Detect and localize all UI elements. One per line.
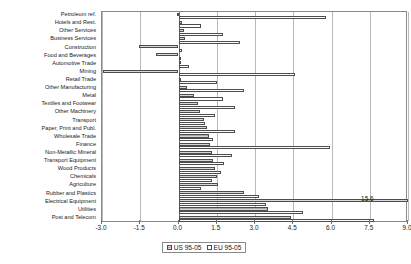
y-axis-category-label: Petroleum ref.	[61, 12, 96, 18]
y-axis-category-label: Paper, Print and Publ.	[42, 126, 96, 132]
legend-item-eu: EU 95-05	[207, 244, 242, 251]
bar-eu	[179, 122, 206, 125]
bar-eu	[179, 154, 233, 157]
legend-swatch-eu-icon	[207, 245, 212, 250]
x-tick-mark	[369, 220, 370, 224]
gridline	[102, 12, 103, 221]
bar-eu	[179, 171, 221, 174]
bar-eu	[179, 203, 267, 206]
y-axis-category-label: Transport	[72, 118, 96, 124]
y-axis-category-label: Metal	[82, 93, 96, 99]
legend-box: US 95-05 EU 95-05	[162, 242, 247, 253]
bar-eu	[179, 146, 331, 149]
bar-eu	[179, 179, 212, 182]
y-axis-category-label: Business Services	[50, 36, 96, 42]
bar-eu	[179, 195, 259, 198]
bar-eu	[179, 16, 327, 19]
bar-eu	[179, 138, 213, 141]
x-tick-mark	[101, 220, 102, 224]
legend-swatch-us-icon	[167, 245, 172, 250]
bar-eu	[179, 187, 202, 190]
x-tick-label: 4.5	[288, 224, 297, 231]
x-tick-mark	[178, 220, 179, 224]
y-axis-category-label: Electrical Equipment	[45, 199, 96, 205]
x-tick-label: 9.0	[403, 224, 411, 231]
y-axis-category-label: Mining	[80, 69, 96, 75]
x-tick-label: -3.0	[95, 224, 106, 231]
bar-us	[139, 45, 179, 48]
y-axis-category-label: Food and Beverages	[44, 53, 96, 59]
bar-eu	[179, 41, 240, 44]
plot-area	[101, 11, 407, 222]
x-tick-mark	[216, 220, 217, 224]
bar-eu	[179, 162, 225, 165]
bar-eu	[179, 114, 216, 117]
gridline	[408, 12, 409, 221]
y-axis-category-label: Finance	[76, 142, 96, 148]
bars-layer	[102, 12, 406, 221]
bar-eu	[179, 81, 217, 84]
gridline	[332, 12, 333, 221]
y-axis-category-label: Retail Trade	[66, 77, 96, 83]
bar-eu	[179, 106, 235, 109]
gridline	[255, 12, 256, 221]
legend-label-eu: EU 95-05	[214, 244, 242, 251]
gridline	[370, 12, 371, 221]
bar-eu	[179, 97, 224, 100]
y-axis-labels: Petroleum ref.Hotels and Rest.Other Serv…	[0, 11, 99, 222]
x-tick-mark	[407, 220, 408, 224]
x-tick-label: 3.0	[250, 224, 259, 231]
x-tick-label: 0.0	[173, 224, 182, 231]
x-tick-label: 1.5	[211, 224, 220, 231]
y-axis-category-label: Wood Products	[58, 166, 96, 172]
data-label-annotation: 15.6	[361, 195, 373, 202]
x-tick-mark	[331, 220, 332, 224]
x-tick-label: 6.0	[326, 224, 335, 231]
bar-eu	[179, 130, 235, 133]
bar-eu	[179, 33, 224, 36]
y-axis-category-label: Hotels and Rest.	[55, 20, 96, 26]
x-tick-mark	[139, 220, 140, 224]
legend-item-us: US 95-05	[167, 244, 202, 251]
x-tick-mark	[292, 220, 293, 224]
gridline	[140, 12, 141, 221]
y-axis-category-label: Rubber and Plastics	[46, 191, 96, 197]
bar-us	[103, 70, 178, 73]
bar-eu	[179, 219, 374, 222]
bar-eu	[179, 89, 244, 92]
y-axis-category-label: Construction	[65, 45, 96, 51]
legend-label-us: US 95-05	[174, 244, 202, 251]
x-tick-label: 7.5	[364, 224, 373, 231]
y-axis-category-label: Other Manufacturing	[45, 85, 96, 91]
y-axis-category-label: Utilities	[78, 207, 96, 213]
y-axis-category-label: Chemicals	[70, 174, 96, 180]
y-axis-category-label: Textiles and Footwear	[42, 101, 96, 107]
x-tick-label: -1.5	[134, 224, 145, 231]
legend: US 95-05 EU 95-05	[0, 242, 408, 253]
x-axis-ticks: -3.0-1.50.01.53.04.56.07.59.0	[101, 224, 407, 236]
bar-eu	[179, 65, 189, 68]
bar-eu	[179, 49, 183, 52]
bar-eu	[179, 73, 295, 76]
y-axis-category-label: Other Services	[59, 28, 96, 34]
y-axis-category-label: Non-Metallic Mineral	[45, 150, 96, 156]
x-tick-mark	[254, 220, 255, 224]
gridline	[293, 12, 294, 221]
y-axis-category-label: Wholesale Trade	[54, 134, 96, 140]
bar-us	[156, 53, 179, 56]
bar-eu	[179, 57, 181, 60]
bar-eu	[179, 211, 304, 214]
y-axis-category-label: Agriculture	[69, 182, 96, 188]
y-axis-category-label: Other Machinery	[55, 109, 96, 115]
y-axis-category-label: Automotive Trade	[52, 61, 96, 67]
bar-eu	[179, 24, 202, 27]
y-axis-category-label: Transport Equipment	[44, 158, 96, 164]
y-axis-category-label: Post and Telecom	[52, 215, 96, 221]
